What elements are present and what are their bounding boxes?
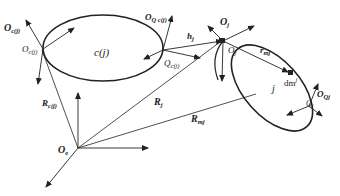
label-R-mj: Rmj [190, 113, 205, 125]
label-Q-j: Qj [306, 99, 314, 109]
label-O-cj: Oc(j) [22, 44, 38, 56]
label-r-mj: rmj [260, 45, 271, 56]
label-O-j-bold: Oj [220, 16, 229, 28]
label-h-j: hj [187, 31, 194, 42]
label-dm-j: dmj [284, 76, 298, 88]
label-R-cj: Rc(j) [41, 98, 57, 110]
label-body-j: j [270, 83, 275, 94]
label-O-Qj-bold: OQj [317, 89, 330, 100]
vector-R-mj [78, 94, 256, 148]
vector-h-j [163, 41, 222, 50]
mass-element-dmj [288, 70, 293, 75]
label-Q-cj: Qc(j) [164, 58, 180, 70]
label-O-Qcj-bold: OQ c(j) [145, 12, 167, 24]
label-R-j: Rj [153, 96, 163, 108]
label-O-e: Oe [58, 144, 68, 156]
coordinate-frames-diagram: Oc(j) Oc(j) c(j) OQ c(j) Qc(j) hj Oj Oj … [0, 0, 340, 196]
label-body-cj: c(j) [94, 46, 110, 59]
frame-oj-axes [208, 26, 288, 81]
label-O-cj-bold: Oc(j) [4, 22, 20, 35]
position-vectors [42, 42, 256, 148]
